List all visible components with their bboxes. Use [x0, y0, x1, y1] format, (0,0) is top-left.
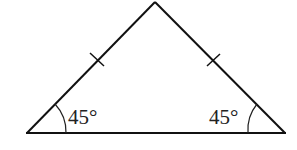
- triangle-diagram: 45° 45°: [0, 0, 297, 150]
- triangle-figure: [0, 0, 297, 150]
- right-angle-arc: [248, 104, 257, 133]
- left-angle-label: 45°: [68, 107, 97, 128]
- right-angle-label: 45°: [209, 107, 238, 128]
- left-angle-arc: [55, 104, 66, 133]
